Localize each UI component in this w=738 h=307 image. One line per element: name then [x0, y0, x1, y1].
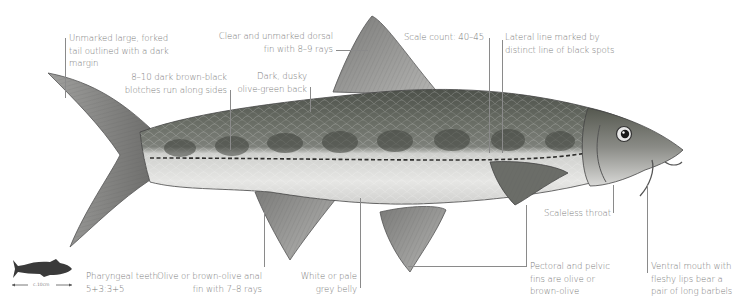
leader-anal: [264, 212, 265, 267]
fish-head: [582, 108, 683, 196]
label-lateral-line: Lateral line marked by distinct line of …: [505, 31, 614, 56]
label-anal-fin: Olive or brown-olive anal fin with 7–8 r…: [157, 270, 262, 295]
dorsal-fin: [333, 16, 440, 95]
leader-dorsal: [336, 50, 368, 51]
label-pharyngeal-teeth: Pharyngeal teeth: 5+3:3+5: [86, 270, 161, 295]
label-dorsal-fin: Clear and unmarked dorsal fin with 8–9 r…: [219, 30, 333, 55]
leader-blotches: [230, 90, 231, 150]
label-pectoral-pelvic: Pectoral and pelvic fins are olive or br…: [530, 260, 610, 298]
label-tail: Unmarked large, forked tail outlined wit…: [69, 32, 169, 70]
leader-mouth: [647, 185, 648, 273]
label-blotches: 8–10 dark brown-black blotches run along…: [125, 71, 227, 96]
scale-label: c.10cm: [33, 282, 50, 287]
leader-lateral-line: [502, 40, 503, 153]
label-belly: White or pale grey belly: [301, 270, 357, 295]
leader-belly: [360, 198, 361, 288]
leader-pelvic: [408, 266, 526, 267]
pelvic-fin: [380, 206, 446, 272]
leader-tail: [65, 38, 66, 98]
leader-scale-count: [489, 38, 490, 153]
label-throat: Scaleless throat: [544, 207, 611, 220]
leader-back: [310, 87, 311, 112]
tail-fin: [48, 73, 150, 247]
fish-diagram: Unmarked large, forked tail outlined wit…: [0, 0, 738, 307]
label-mouth: Ventral mouth with fleshy lips bear a pa…: [651, 260, 732, 298]
label-scale-count: Scale count: 40–45: [404, 31, 484, 44]
leader-pectoral: [526, 205, 527, 267]
label-back: Dark, dusky olive-green back: [237, 70, 307, 95]
leader-throat: [613, 185, 614, 213]
